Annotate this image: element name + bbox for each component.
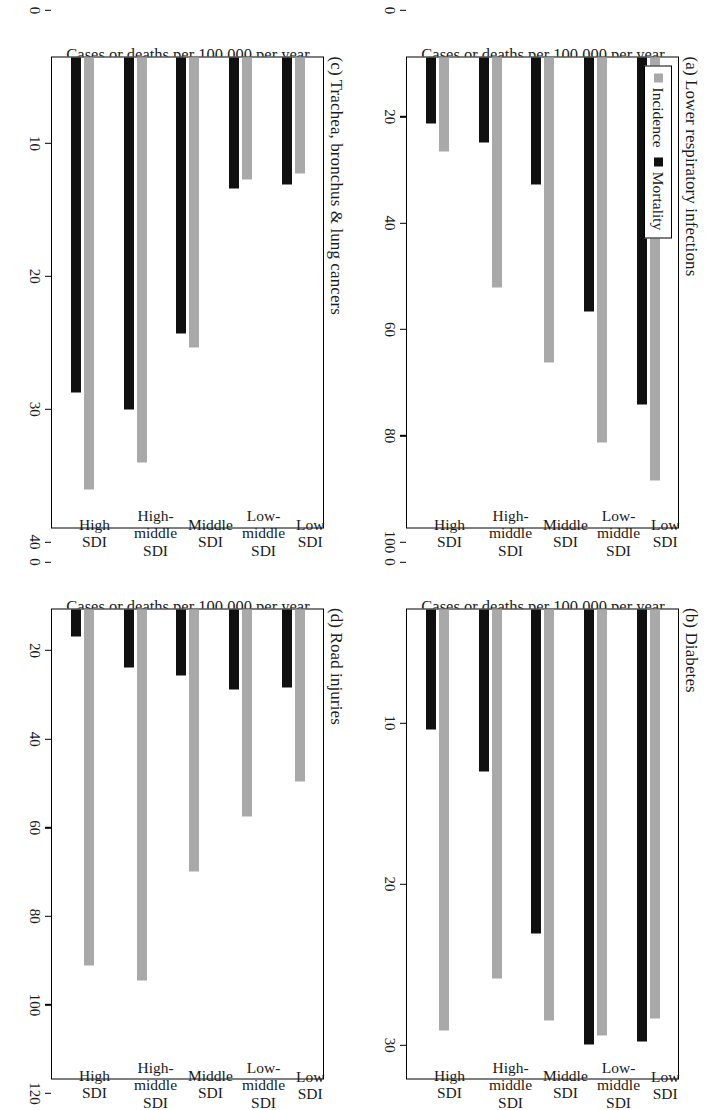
axis-tick bbox=[45, 1004, 51, 1005]
bar-mortality bbox=[176, 609, 186, 676]
bar-group bbox=[520, 57, 565, 527]
category-label: High-middle SDI bbox=[489, 1058, 532, 1110]
axis-tick-label: 0 bbox=[381, 6, 398, 14]
bar-group bbox=[113, 609, 158, 1079]
axis-tick bbox=[45, 541, 51, 542]
bar-incidence bbox=[189, 57, 199, 347]
bar-group bbox=[468, 57, 513, 527]
axis-tick bbox=[400, 434, 406, 435]
panel-c: (c) Trachea, bronchus & lung cancers Cas… bbox=[0, 0, 355, 552]
category-label: Low-middle SDI bbox=[242, 1058, 285, 1110]
bar-mortality bbox=[479, 57, 489, 142]
bar-group bbox=[573, 609, 618, 1079]
axis-tick bbox=[45, 9, 51, 10]
panel-c-plot-area: Cases or deaths per 100,000 per year Low… bbox=[51, 56, 324, 528]
category-label: Middle SDI bbox=[188, 1067, 233, 1102]
category-label: High-middle SDI bbox=[489, 506, 532, 558]
category-label: Low-middle SDI bbox=[597, 506, 640, 558]
axis-tick bbox=[400, 1044, 406, 1045]
bar-incidence bbox=[597, 57, 607, 442]
panel-c-bars bbox=[52, 57, 323, 527]
panel-b: (b) Diabetes Cases or deaths per 100,000… bbox=[355, 552, 710, 1104]
bar-mortality bbox=[176, 57, 186, 333]
axis-tick-label: 30 bbox=[26, 401, 43, 416]
panel-b-plot-area: Cases or deaths per 100,000 per year Low… bbox=[406, 608, 679, 1080]
panel-a-value-axis: 020406080100 bbox=[376, 10, 406, 542]
bar-mortality bbox=[637, 609, 647, 1042]
bar-group bbox=[271, 57, 316, 527]
category-label: High SDI bbox=[434, 515, 465, 550]
axis-tick-label: 40 bbox=[381, 215, 398, 230]
panel-a-plot-area: Cases or deaths per 100,000 per year Inc… bbox=[406, 56, 679, 528]
bar-incidence bbox=[650, 609, 660, 1019]
bar-group bbox=[626, 609, 671, 1079]
bar-incidence bbox=[295, 609, 305, 781]
panel-d-plot: Low SDILow-middle SDIMiddle SDIHigh-midd… bbox=[51, 608, 324, 1080]
panel-d-plot-area: Cases or deaths per 100,000 per year Low… bbox=[51, 608, 324, 1080]
bar-group bbox=[468, 609, 513, 1079]
panel-d-value-axis: 020406080100120 bbox=[21, 562, 51, 1094]
bar-mortality bbox=[71, 609, 81, 636]
bar-mortality bbox=[229, 57, 239, 188]
axis-tick bbox=[45, 408, 51, 409]
axis-tick-label: 30 bbox=[381, 1037, 398, 1052]
panel-a: (a) Lower respiratory infections Cases o… bbox=[355, 0, 710, 552]
category-label: Low SDI bbox=[651, 1067, 679, 1102]
bar-incidence bbox=[439, 57, 449, 151]
bar-group bbox=[218, 57, 263, 527]
axis-tick bbox=[45, 827, 51, 828]
axis-tick-label: 0 bbox=[26, 558, 43, 566]
bar-mortality bbox=[531, 57, 541, 184]
legend-swatch-mortality-icon bbox=[654, 157, 663, 166]
axis-tick bbox=[45, 1092, 51, 1093]
axis-tick-label: 120 bbox=[26, 1082, 43, 1105]
axis-tick bbox=[45, 142, 51, 143]
panel-d-bars bbox=[52, 609, 323, 1079]
bar-mortality bbox=[584, 609, 594, 1044]
axis-tick-label: 60 bbox=[26, 820, 43, 835]
bar-mortality bbox=[124, 57, 134, 409]
panel-b-plot: Low SDILow-middle SDIMiddle SDIHigh-midd… bbox=[406, 608, 679, 1080]
bar-group bbox=[415, 609, 460, 1079]
axis-tick bbox=[45, 275, 51, 276]
bar-incidence bbox=[84, 609, 94, 965]
bar-mortality bbox=[282, 609, 292, 687]
bar-mortality bbox=[584, 57, 594, 311]
category-label: Low SDI bbox=[651, 515, 679, 550]
category-label: Low SDI bbox=[296, 1067, 324, 1102]
panel-b-bars bbox=[407, 609, 678, 1079]
bar-incidence bbox=[492, 57, 502, 287]
category-label: Low SDI bbox=[296, 515, 324, 550]
axis-tick-label: 0 bbox=[26, 6, 43, 14]
bar-mortality bbox=[282, 57, 292, 184]
axis-tick bbox=[400, 9, 406, 10]
axis-tick-label: 10 bbox=[26, 135, 43, 150]
category-label: High-middle SDI bbox=[134, 1058, 177, 1110]
bar-group bbox=[60, 609, 105, 1079]
bar-mortality bbox=[71, 57, 81, 392]
bar-incidence bbox=[242, 609, 252, 816]
panel-b-value-axis: 0102030 bbox=[376, 562, 406, 1094]
axis-tick-label: 100 bbox=[26, 993, 43, 1016]
panel-d-title: (d) Road injuries bbox=[326, 608, 345, 1094]
axis-tick-label: 40 bbox=[26, 534, 43, 549]
bar-incidence bbox=[242, 57, 252, 179]
panel-a-plot: Incidence Mortality Low SDILow-middle SD… bbox=[406, 56, 679, 528]
axis-tick-label: 20 bbox=[26, 268, 43, 283]
bar-incidence bbox=[544, 609, 554, 1020]
axis-tick-label: 20 bbox=[381, 109, 398, 124]
bar-group bbox=[520, 609, 565, 1079]
bar-mortality bbox=[479, 609, 489, 771]
bar-mortality bbox=[426, 57, 436, 123]
axis-tick-label: 0 bbox=[381, 558, 398, 566]
legend-box: Incidence Mortality bbox=[644, 65, 672, 238]
bar-incidence bbox=[137, 609, 147, 981]
bar-incidence bbox=[189, 609, 199, 871]
bar-mortality bbox=[426, 609, 436, 730]
legend-swatch-incidence-icon bbox=[654, 73, 663, 82]
bar-incidence bbox=[492, 609, 502, 979]
bar-incidence bbox=[597, 609, 607, 1036]
